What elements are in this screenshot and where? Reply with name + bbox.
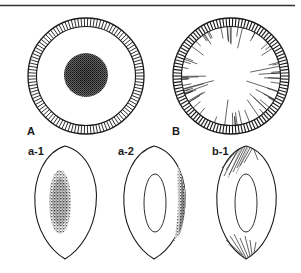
panel-b1: b-1 [212,145,276,259]
panel-b: B [172,18,289,137]
tip-streaks [222,147,258,258]
label-b1: b-1 [212,145,229,157]
label-a2: a-2 [118,145,134,157]
label-a1: a-1 [28,145,44,157]
panel-a: A [27,18,144,137]
label-b: B [172,125,180,137]
panel-a2: a-2 [118,145,186,259]
label-a: A [27,125,35,137]
diagram-canvas: A B a-1 a-2 b-1 [0,0,301,273]
panel-a1: a-1 [28,145,96,259]
